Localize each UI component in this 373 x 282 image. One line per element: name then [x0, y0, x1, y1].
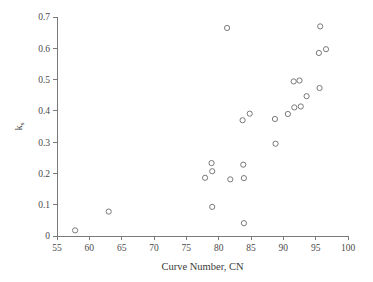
x-tick-label: 55 [52, 243, 62, 253]
data-point [106, 209, 111, 214]
x-tick-label: 65 [117, 243, 127, 253]
data-point [210, 169, 215, 174]
y-axis-title-subscript: s [18, 122, 26, 125]
scatter-chart-figure: 556065707580859095100 00.10.20.30.40.50.… [0, 0, 373, 282]
data-point [241, 176, 246, 181]
y-tick-label: 0.6 [38, 44, 50, 54]
data-point [304, 94, 309, 99]
x-tick-label: 85 [246, 243, 256, 253]
data-point [323, 47, 328, 52]
y-tick-label: 0 [45, 231, 50, 241]
y-tick-label: 0.2 [38, 169, 50, 179]
y-tick-label: 0.4 [38, 106, 50, 116]
x-tick-label: 80 [214, 243, 224, 253]
data-point [318, 24, 323, 29]
data-point [241, 162, 246, 167]
x-axis-tick-labels: 556065707580859095100 [52, 243, 355, 253]
data-point [210, 204, 215, 209]
data-point [297, 78, 302, 83]
data-point [317, 85, 322, 90]
x-axis-title: Curve Number, CN [161, 261, 244, 272]
data-point [291, 79, 296, 84]
data-point [272, 116, 277, 121]
x-tick-label: 100 [341, 243, 356, 253]
data-point [298, 104, 303, 109]
data-point [285, 111, 290, 116]
data-point [240, 118, 245, 123]
data-point [316, 50, 321, 55]
data-point [241, 221, 246, 226]
data-point [202, 175, 207, 180]
y-tick-label: 0.5 [38, 75, 50, 85]
data-point [273, 141, 278, 146]
tick-marks [53, 17, 348, 240]
data-point [209, 161, 214, 166]
data-point [73, 228, 78, 233]
chart-canvas: 556065707580859095100 00.10.20.30.40.50.… [0, 0, 373, 282]
data-point [292, 105, 297, 110]
data-points [73, 24, 329, 233]
axes [57, 17, 348, 236]
x-tick-label: 60 [85, 243, 95, 253]
y-axis-title: ks [13, 122, 26, 130]
data-point [247, 111, 252, 116]
y-tick-label: 0.1 [38, 200, 50, 210]
x-tick-label: 75 [182, 243, 192, 253]
y-axis-tick-labels: 00.10.20.30.40.50.60.7 [38, 12, 50, 241]
y-tick-label: 0.3 [38, 138, 50, 148]
x-tick-label: 95 [311, 243, 321, 253]
x-tick-label: 70 [149, 243, 159, 253]
data-point [224, 25, 229, 30]
data-point [228, 177, 233, 182]
y-tick-label: 0.7 [38, 12, 50, 22]
x-tick-label: 90 [279, 243, 289, 253]
